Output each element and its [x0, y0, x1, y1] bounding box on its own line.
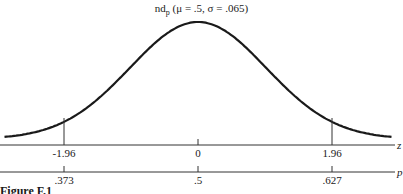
z-axis-label: z: [396, 139, 402, 151]
p-tick-label: .627: [322, 174, 342, 186]
z-tick-label: 1.96: [322, 147, 342, 159]
figure-caption: Figure F.1: [0, 184, 52, 194]
p-axis-label: p: [396, 166, 403, 178]
p-tick-label: .5: [194, 174, 203, 186]
z-tick-label: -1.96: [53, 147, 76, 159]
p-tick-label: .373: [54, 174, 74, 186]
normal-curve: [5, 22, 392, 137]
z-tick-label: 0: [195, 147, 201, 159]
normal-curve-plot: z -1.96 0 1.96 p .373 .5 .627: [0, 0, 403, 194]
